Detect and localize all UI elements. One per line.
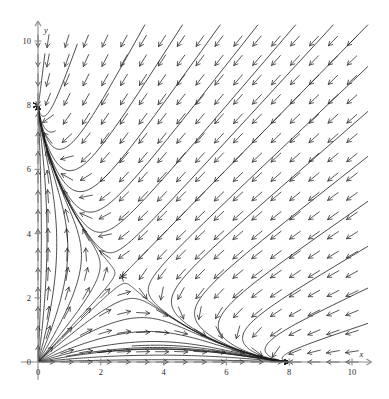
arrow-head-b xyxy=(80,213,84,214)
arrow-head-a xyxy=(184,314,185,318)
arrow-head-a xyxy=(328,200,332,201)
y-tick-label: 6 xyxy=(27,164,31,174)
x-tick-label: 2 xyxy=(99,367,103,377)
x-tick-label: 6 xyxy=(224,367,228,377)
arrow-head-a xyxy=(308,335,312,336)
arrow-head-b xyxy=(177,100,178,104)
x-axis-name: x xyxy=(359,349,364,359)
arrow-head-b xyxy=(45,101,46,105)
arrow-head-b xyxy=(158,275,159,279)
arrow-head-b xyxy=(83,43,84,47)
x-tick-label: 8 xyxy=(287,367,291,377)
y-tick-label: 2 xyxy=(27,293,31,303)
origin-label-left: 0 xyxy=(27,357,31,367)
arrow-head-a xyxy=(289,354,293,355)
arrow-head-b xyxy=(196,61,197,65)
arrow-head-b xyxy=(158,119,159,123)
phase-portrait-figure: 24681024681000xy xyxy=(0,0,389,399)
x-tick-label: 4 xyxy=(161,367,166,377)
phase-portrait-canvas: 24681024681000xy xyxy=(0,0,389,399)
arrow-head-b xyxy=(64,81,65,85)
x-tick-label: 10 xyxy=(348,367,357,377)
y-tick-label: 8 xyxy=(27,100,31,110)
arrow-head-b xyxy=(196,294,197,298)
arrow-head-b xyxy=(101,139,102,143)
arrow-head-a xyxy=(346,315,350,316)
arrow-head-b xyxy=(196,81,197,85)
arrow-head-b xyxy=(120,139,121,143)
arrow-head-b xyxy=(215,42,216,46)
y-axis-name: y xyxy=(43,25,48,35)
origin-label-bottom: 0 xyxy=(36,367,40,377)
y-tick-label: 10 xyxy=(23,36,32,46)
